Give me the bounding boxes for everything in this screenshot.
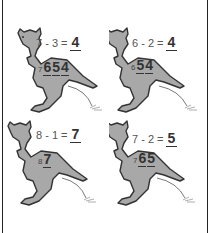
hop-number: 4 (61, 59, 69, 76)
hop-arc-icon (157, 84, 203, 112)
equation: 7 - 2 =5 (132, 130, 177, 146)
hop-arc-icon (66, 84, 106, 112)
equation-text: 7 - 3 = (36, 37, 68, 49)
answer: 4 (70, 34, 82, 51)
equation: 6 - 2 =4 (132, 34, 177, 50)
hop-number: 6 (43, 59, 51, 76)
hop-arc-icon (155, 176, 201, 204)
start-number: 8 (38, 157, 42, 166)
equation-text: 8 - 1 = (36, 129, 68, 141)
hop-number: 7 (43, 151, 51, 168)
equation: 7 - 3 =4 (36, 34, 81, 50)
problem-cell-1: 7 - 3 =4 7654 (4, 0, 108, 116)
equation-text: 6 - 2 = (132, 37, 164, 49)
equation: 8 - 1 =7 (36, 126, 81, 142)
hop-number: 5 (147, 150, 155, 167)
answer: 4 (166, 34, 178, 51)
hop-number: 4 (145, 57, 153, 74)
hop-numbers: 87 (38, 150, 51, 168)
start-number: 7 (38, 65, 42, 74)
answer: 5 (166, 130, 178, 147)
start-number: 6 (131, 63, 135, 72)
hop-number: 6 (138, 150, 146, 167)
problem-cell-2: 6 - 2 =4 654 (109, 0, 213, 116)
problem-cell-4: 7 - 2 =5 765 (109, 116, 213, 232)
hop-number: 5 (136, 57, 144, 74)
answer: 7 (70, 126, 82, 143)
hop-arc-icon (60, 176, 100, 204)
page-border-left (2, 0, 3, 233)
hop-numbers: 765 (133, 149, 155, 167)
equation-text: 7 - 2 = (132, 133, 164, 145)
hop-numbers: 654 (131, 56, 153, 74)
problem-cell-3: 8 - 1 =7 87 (4, 116, 108, 232)
hop-numbers: 7654 (38, 58, 69, 76)
hop-number: 5 (52, 59, 60, 76)
start-number: 7 (133, 156, 137, 165)
